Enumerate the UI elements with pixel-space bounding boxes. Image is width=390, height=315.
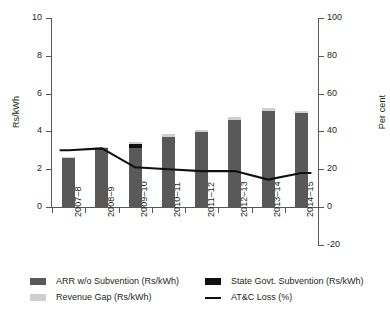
legend-label: ARR w/o Subvention (Rs/kWh) <box>56 276 179 286</box>
legend-marker-swatch <box>30 294 46 301</box>
legend-marker-line <box>205 297 221 299</box>
legend-label: Revenue Gap (Rs/kWh) <box>56 292 152 302</box>
legend-marker-swatch <box>30 278 46 285</box>
legend-label: State Govt. Subvention (Rs/kWh) <box>231 276 364 286</box>
legend-label: AT&C Loss (%) <box>231 292 292 302</box>
chart-container: Rs/kWh Per cent 0246810 -20020406080100 … <box>0 0 390 315</box>
legend-marker-swatch <box>205 278 221 285</box>
atc-loss-line <box>60 148 312 179</box>
line-layer <box>0 0 390 315</box>
